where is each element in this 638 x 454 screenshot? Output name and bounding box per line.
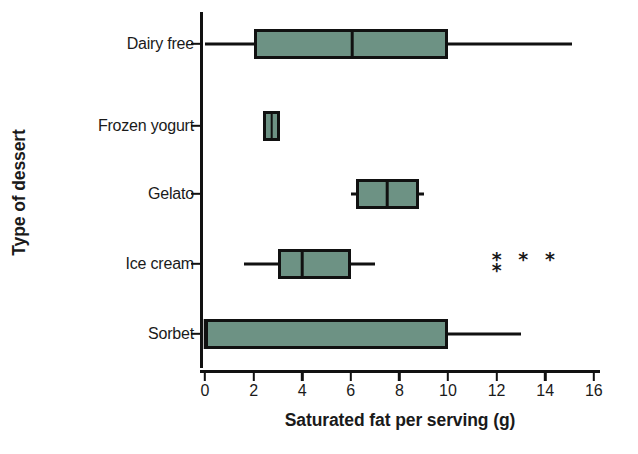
median-line [271,111,274,141]
category-label-ice-cream: Ice cream [30,255,198,273]
median-line [301,249,304,279]
whisker-low [244,263,278,266]
box-plot-chart: Type of dessert Dairy freeFrozen yogurtG… [0,0,638,454]
outlier-marker: * [545,250,555,269]
y-axis-tick [191,333,200,335]
whisker-high [448,43,572,46]
box-iqr [278,249,351,279]
x-axis-tick-label: 14 [536,382,554,400]
x-axis-tick-label: 12 [488,382,506,400]
outlier-marker: * [492,261,502,280]
x-axis-tick [252,372,254,381]
x-axis-tick [350,372,352,381]
whisker-high [419,193,424,196]
whisker-high [448,333,521,336]
x-axis-tick-label: 2 [249,382,258,400]
box-iqr [205,319,448,349]
y-axis-tick [191,193,200,195]
x-axis-tick-label: 4 [298,382,307,400]
x-axis-tick [495,372,497,381]
whisker-high [351,263,375,266]
outlier-marker: * [518,250,528,269]
x-axis-tick-label: 0 [201,382,210,400]
x-axis-tick [301,372,303,381]
x-axis-tick [593,372,595,381]
category-label-sorbet: Sorbet [30,325,198,343]
median-line [351,29,354,59]
category-label-group: Dairy freeFrozen yogurtGelatoIce creamSo… [18,0,198,385]
x-axis-tick-label: 8 [395,382,404,400]
y-axis-line [200,12,203,368]
whisker-low [205,43,254,46]
x-axis: Saturated fat per serving (g) 0246810121… [200,370,630,454]
y-axis-tick [191,43,200,45]
plot-area: **** [200,8,630,370]
x-axis-tick [398,372,400,381]
x-axis-tick-label: 6 [346,382,355,400]
x-axis-tick [447,372,449,381]
x-axis-tick [204,372,206,381]
category-label-gelato: Gelato [30,185,198,203]
x-axis-tick [544,372,546,381]
y-axis-tick [191,125,200,127]
median-line [204,319,207,349]
category-label-frozen-yogurt: Frozen yogurt [30,117,198,135]
category-label-dairy-free: Dairy free [30,35,198,53]
x-axis-tick-label: 16 [585,382,603,400]
x-axis-title: Saturated fat per serving (g) [200,410,600,431]
median-line [386,179,389,209]
y-axis-tick [191,263,200,265]
x-axis-tick-label: 10 [439,382,457,400]
